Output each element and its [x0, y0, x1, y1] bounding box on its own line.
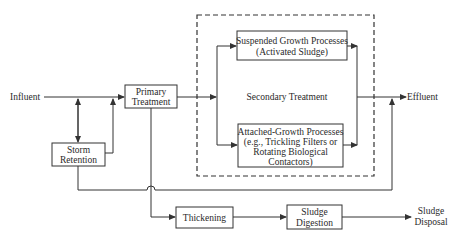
thickening-label: Thickening: [183, 213, 227, 223]
thickening-box: Thickening: [176, 207, 233, 228]
storm-to-primary-arrow: [105, 99, 113, 153]
storm-line-2: Retention: [60, 155, 97, 165]
storm-retention-box: Storm Retention: [52, 143, 105, 166]
storm-line-1: Storm: [67, 145, 91, 155]
suspended-growth-box: Suspended Growth Processes (Activated Sl…: [236, 31, 348, 60]
effluent-label: Effluent: [407, 92, 438, 102]
sludge-digestion-box: Sludge Digestion: [287, 205, 342, 229]
influent-label: Influent: [10, 92, 40, 102]
attached-growth-box: Attached-Growth Processes (e.g., Trickli…: [238, 124, 344, 168]
process-flow-diagram: Influent Primary Treatment Storm Retenti…: [0, 0, 458, 241]
primary-line-2: Treatment: [132, 97, 171, 107]
disposal-line-1: Sludge: [418, 206, 444, 216]
digestion-line-2: Digestion: [296, 218, 333, 228]
primary-treatment-box: Primary Treatment: [125, 85, 177, 108]
disposal-line-2: Disposal: [414, 217, 448, 227]
attached-line-4: Contactors): [268, 157, 312, 168]
digestion-line-1: Sludge: [301, 207, 327, 217]
primary-to-thickening-arrow: [151, 108, 175, 217]
suspended-line-2: (Activated Sludge): [256, 47, 328, 58]
primary-line-1: Primary: [136, 87, 167, 97]
secondary-treatment-label: Secondary Treatment: [246, 92, 327, 102]
attached-line-1: Attached-Growth Processes: [238, 127, 344, 137]
attached-line-3: Rotating Biological: [253, 147, 328, 157]
suspended-line-1: Suspended Growth Processes: [236, 36, 348, 46]
